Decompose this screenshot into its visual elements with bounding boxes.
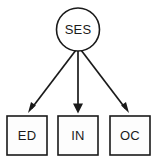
observed-node-oc[interactable]: OC <box>110 116 150 155</box>
path-arrow-ses-to-in <box>73 51 83 114</box>
path-arrow-ses-to-ed <box>28 50 76 113</box>
latent-node-ses[interactable]: SES <box>57 8 100 51</box>
latent-label-ses: SES <box>65 22 92 37</box>
observed-label-ed: ED <box>18 128 36 143</box>
observed-label-oc: OC <box>120 128 140 143</box>
observed-node-ed[interactable]: ED <box>7 116 47 155</box>
path-line-ses-to-oc <box>81 50 126 109</box>
path-diagram-svg: SES ED IN OC <box>0 0 160 167</box>
path-line-ses-to-ed <box>32 50 77 109</box>
observed-label-in: IN <box>71 128 84 143</box>
observed-node-in[interactable]: IN <box>58 116 98 155</box>
path-diagram-canvas: SES ED IN OC <box>0 0 160 167</box>
arrow-head-in <box>73 104 83 114</box>
path-arrow-ses-to-oc <box>81 50 129 113</box>
